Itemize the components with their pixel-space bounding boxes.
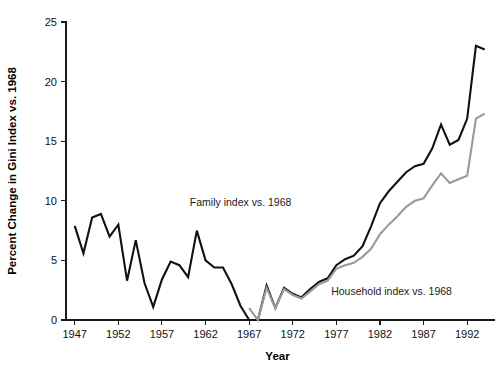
y-tick-label: 0 [51,314,57,326]
x-tick-label: 1992 [455,328,479,340]
series-annotation-2: Household index vs. 1968 [331,285,452,297]
x-tick-label: 1972 [281,328,305,340]
x-axis: 1947195219571962196719721977198219871992 [62,320,495,340]
x-tick-label: 1947 [62,328,86,340]
y-tick-label: 20 [45,76,57,88]
x-tick-label: 1952 [106,328,130,340]
chart-canvas: 0510152025 19471952195719621967197219771… [0,0,501,371]
y-tick-label: 15 [45,135,57,147]
x-tick-label: 1957 [150,328,174,340]
y-tick-label: 10 [45,195,57,207]
y-axis: 0510152025 [45,16,66,326]
y-axis-title: Percent Change in Gini Index vs. 1968 [6,67,18,275]
x-tick-label: 1987 [411,328,435,340]
x-tick-label: 1977 [324,328,348,340]
x-tick-label: 1982 [368,328,392,340]
y-tick-label: 25 [45,16,57,28]
series-lines [75,46,485,320]
gini-index-line-chart: 0510152025 19471952195719621967197219771… [0,0,501,371]
x-tick-label: 1967 [237,328,261,340]
y-tick-label: 5 [51,254,57,266]
x-tick-label: 1962 [193,328,217,340]
series-annotation-1: Family index vs. 1968 [190,196,292,208]
x-axis-title: Year [265,350,290,362]
series-line-1 [75,46,485,320]
